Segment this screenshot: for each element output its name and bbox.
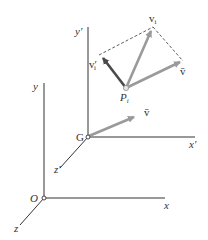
v-prime-i-label: v′i	[89, 58, 97, 72]
G-label: G	[76, 131, 84, 143]
z-prime-axis-label: z′	[53, 163, 61, 175]
v-prime-i-vector	[103, 58, 126, 88]
x-prime-axis-label: x′	[188, 138, 197, 150]
v-prime-i-label-sub: i	[94, 64, 96, 72]
y-prime-axis-label: y′	[74, 25, 83, 37]
fixed-frame: y x z O	[13, 80, 169, 234]
vbar-at-P-vector	[126, 62, 180, 88]
P-i-label-sub: i	[127, 97, 129, 105]
origin-O-point	[42, 196, 46, 200]
v-i-label-sub: i	[155, 18, 157, 26]
particle-velocity-parallelogram: vi v′i v̄ Pi	[89, 12, 186, 105]
v-i-label: vi	[149, 12, 157, 26]
x-axis-label: x	[163, 199, 169, 211]
G-point	[86, 135, 90, 139]
rigid-body-kinematics-diagram: y x z O y′ x′ z′ G v̄ vi v′i v̄ Pi	[0, 0, 208, 240]
z-axis-label: z	[13, 222, 19, 234]
vbar-at-G-vector	[89, 117, 134, 136]
vbar-at-G-label: v̄	[144, 106, 150, 118]
P-i-point	[123, 85, 128, 90]
origin-O-label: O	[30, 192, 38, 204]
dashed-edge-top	[99, 27, 153, 55]
dashed-edge-right	[153, 27, 183, 61]
P-i-label: Pi	[119, 91, 129, 105]
vbar-at-P-label: v̄	[180, 65, 186, 77]
y-axis-label: y	[32, 80, 38, 92]
v-i-vector	[126, 31, 151, 88]
